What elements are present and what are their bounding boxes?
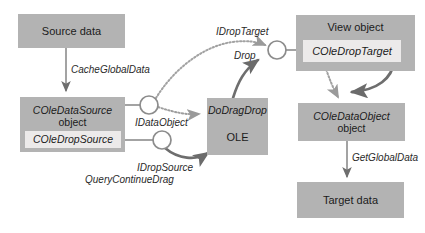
box-cole-drop-target-label: COleDropTarget xyxy=(312,45,392,58)
box-ole-label: DoDragDrop xyxy=(208,104,267,116)
label-drop: Drop xyxy=(234,50,256,61)
box-ole: DoDragDrop OLE xyxy=(207,98,268,155)
box-cole-data-object-sublabel: object xyxy=(337,122,365,134)
box-source-data-label: Source data xyxy=(42,25,101,38)
box-view-object-label: View object xyxy=(327,21,383,34)
arrow-drop xyxy=(233,60,258,98)
diagram-canvas: Source data COleDataSource object COleDr… xyxy=(0,0,425,233)
label-get-global-data: GetGlobalData xyxy=(352,152,418,163)
box-cole-data-object-label: COleDataObject xyxy=(313,110,389,122)
box-cole-data-object: COleDataObject object xyxy=(298,103,405,141)
label-idata-object: IDataObject xyxy=(135,117,188,128)
box-cole-data-source-label: COleDataSource xyxy=(33,104,112,116)
arrow-idataobject-to-ole xyxy=(158,107,199,114)
box-cole-drop-target: COleDropTarget xyxy=(303,40,401,62)
box-ole-sublabel: OLE xyxy=(226,131,248,144)
box-cole-drop-source: COleDropSource xyxy=(25,131,121,148)
box-cole-drop-source-label: COleDropSource xyxy=(33,133,113,145)
label-idrop-source: IDropSource xyxy=(137,162,193,173)
box-source-data: Source data xyxy=(18,14,125,48)
label-idrop-target: IDropTarget xyxy=(216,26,268,37)
box-target-data: Target data xyxy=(297,182,404,218)
box-target-data-label: Target data xyxy=(323,194,378,207)
interface-node-idroptarget xyxy=(268,41,286,59)
box-cole-data-source-sublabel: object xyxy=(58,116,86,128)
interface-node-idataobject xyxy=(140,96,158,114)
label-cache-global-data: CacheGlobalData xyxy=(71,64,150,75)
label-query-continue-drag: QueryContinueDrag xyxy=(85,174,174,185)
arrow-idropsource-to-ole xyxy=(165,148,208,158)
interface-node-idropsource xyxy=(153,131,171,149)
